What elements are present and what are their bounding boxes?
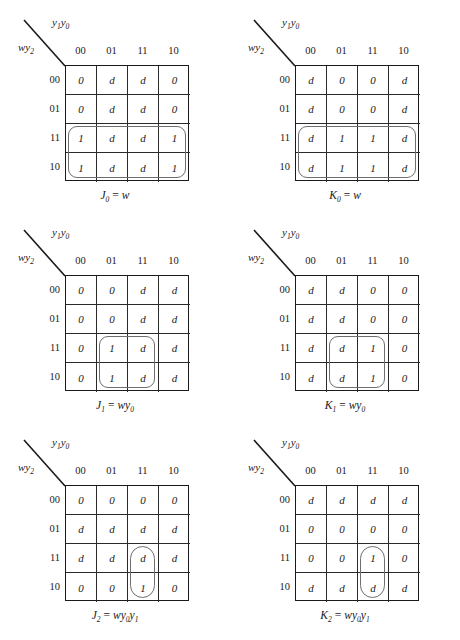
column-headers: 00011110 (65, 256, 189, 267)
column-header-01: 01 (326, 466, 357, 477)
column-header-00: 00 (65, 46, 96, 57)
kmap-cell: 0 (327, 66, 358, 95)
kmap-cell: 0 (327, 95, 358, 124)
kmap-cell: d (128, 305, 159, 334)
kmap-grid-wrap: 00dd00dd01dd01dd (65, 275, 189, 391)
kmap-cell: d (128, 515, 159, 544)
kmap-cell: 0 (66, 305, 97, 334)
kmap-cell: d (296, 334, 327, 363)
row-header-00: 00 (266, 275, 290, 304)
row-headers: 00011110 (36, 65, 60, 181)
row-header-00: 00 (266, 65, 290, 94)
column-header-10: 10 (158, 256, 189, 267)
kmap-cell: 0 (66, 363, 97, 392)
kmap-cell: d (128, 334, 159, 363)
kmap-cell: d (128, 544, 159, 573)
kmap-grid: dddd00000010dddd (295, 485, 419, 601)
column-header-00: 00 (295, 466, 326, 477)
caption-expression: wy0y1 (113, 609, 138, 621)
kmap-cell: d (296, 124, 327, 153)
column-headers: 00011110 (65, 466, 189, 477)
column-header-00: 00 (295, 256, 326, 267)
caption-equals: = (341, 189, 354, 201)
row-header-00: 00 (36, 485, 60, 514)
row-header-01: 01 (36, 94, 60, 123)
kmap-caption-j1: J1=wy0 (0, 400, 230, 414)
kmap-cell: 0 (97, 305, 128, 334)
kmap-cell: d (389, 66, 420, 95)
kmap-cell: d (389, 486, 420, 515)
kmap-caption-j0: J0=w (0, 190, 230, 204)
kmap-j1: y1y0wy2000111100001111000dd00dd01dd01ddJ… (0, 210, 230, 420)
kmap-cell: d (358, 486, 389, 515)
row-header-01: 01 (36, 514, 60, 543)
kmap-cell: d (66, 515, 97, 544)
row-headers: 00011110 (266, 485, 290, 601)
kmap-cell: d (66, 544, 97, 573)
column-header-11: 11 (357, 256, 388, 267)
kmap-cell: d (97, 95, 128, 124)
caption-expression: w (353, 189, 361, 201)
axis-column-variables-label: y1y0 (52, 437, 69, 451)
axis-label-box: y1y0wy2 (18, 226, 78, 278)
kmap-grid-wrap: dd00dd00dd10dd10 (295, 275, 419, 391)
kmap-cell: 0 (358, 66, 389, 95)
axis-row-variables-label: wy2 (18, 252, 34, 266)
kmap-cell: d (128, 66, 159, 95)
kmap-cell: 0 (389, 305, 420, 334)
kmap-cell: 1 (66, 153, 97, 182)
row-header-00: 00 (36, 275, 60, 304)
kmap-grid-wrap: 0dd00dd01dd11dd1 (65, 65, 189, 181)
kmap-cell: 0 (296, 515, 327, 544)
kmap-cell: d (128, 276, 159, 305)
kmap-cell: d (389, 124, 420, 153)
kmap-cell: d (389, 153, 420, 182)
row-header-10: 10 (266, 572, 290, 601)
row-header-11: 11 (266, 543, 290, 572)
kmap-cell: d (296, 95, 327, 124)
kmap-cell: 0 (389, 334, 420, 363)
row-header-10: 10 (36, 362, 60, 391)
column-header-01: 01 (96, 46, 127, 57)
row-headers: 00011110 (36, 275, 60, 391)
kmap-caption-k0: K0=w (230, 190, 460, 204)
axis-row-variables-label: wy2 (18, 42, 34, 56)
column-header-10: 10 (388, 466, 419, 477)
kmap-k1: y1y0wy20001111000011110dd00dd00dd10dd10K… (230, 210, 460, 420)
column-header-11: 11 (357, 466, 388, 477)
caption-expression: wy0y1 (344, 609, 369, 621)
kmap-cell: d (327, 334, 358, 363)
kmap-cell: d (327, 305, 358, 334)
column-header-00: 00 (295, 46, 326, 57)
kmap-cell: d (296, 363, 327, 392)
kmap-cell: 0 (66, 66, 97, 95)
kmap-cell: 0 (66, 573, 97, 602)
kmap-cell: 1 (327, 153, 358, 182)
caption-variable: K1 (325, 399, 336, 411)
kmap-cell: 0 (159, 95, 190, 124)
column-header-01: 01 (326, 256, 357, 267)
kmap-cell: 0 (389, 515, 420, 544)
kmap-cell: d (296, 276, 327, 305)
axis-label-box: y1y0wy2 (248, 16, 308, 68)
kmap-cell: d (296, 486, 327, 515)
row-header-11: 11 (266, 333, 290, 362)
kmap-grid-wrap: 0000dddddddd0010 (65, 485, 189, 601)
row-header-01: 01 (36, 304, 60, 333)
kmap-cell: 1 (358, 334, 389, 363)
kmap-cell: d (128, 363, 159, 392)
column-headers: 00011110 (295, 466, 419, 477)
kmap-grid: 0dd00dd01dd11dd1 (65, 65, 189, 181)
kmap-cell: d (389, 95, 420, 124)
kmap-cell: d (97, 515, 128, 544)
kmap-cell: 0 (66, 334, 97, 363)
kmap-cell: 1 (128, 573, 159, 602)
kmap-cell: 1 (97, 334, 128, 363)
kmap-cell: 0 (327, 544, 358, 573)
kmap-cell: 0 (358, 305, 389, 334)
column-header-01: 01 (96, 256, 127, 267)
kmap-cell: 0 (128, 486, 159, 515)
kmap-cell: d (159, 276, 190, 305)
kmap-cell: d (97, 124, 128, 153)
kmap-cell: d (97, 66, 128, 95)
